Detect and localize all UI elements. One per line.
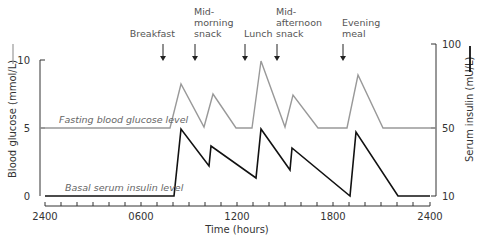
x-axis-title: Time (hours)	[204, 224, 269, 235]
fasting-glucose-annotation: Fasting blood glucose level	[59, 114, 189, 125]
evening-label-2: meal	[342, 28, 366, 39]
midafternoon-label-3: snack	[276, 28, 304, 39]
breakfast-arrow-icon	[160, 56, 166, 61]
y-right-axis-title: Serum insulin (mU/L)	[464, 56, 475, 162]
x-tick-0600: 0600	[128, 211, 153, 222]
evening-arrow-icon	[340, 56, 346, 61]
x-tick-2400-start: 2400	[32, 211, 57, 222]
breakfast-label: Breakfast	[130, 28, 175, 39]
midafternoon-arrow-icon	[274, 56, 280, 61]
midmorning-arrow-icon	[192, 56, 198, 61]
lunch-arrow-icon	[242, 56, 248, 61]
y-left-tick-0: 0	[24, 191, 30, 202]
meal-markers	[163, 44, 343, 58]
midmorning-label-3: snack	[194, 28, 222, 39]
y-left-tick-10: 10	[17, 55, 30, 66]
lunch-label: Lunch	[244, 28, 272, 39]
y-right-tick-50: 50	[442, 123, 455, 134]
left-y-axis: 10 5 0 Blood glucose (mmol/L)	[7, 44, 45, 202]
x-tick-2400-end: 2400	[417, 211, 442, 222]
y-right-tick-100: 100	[442, 39, 461, 50]
midafternoon-label-1: Mid-	[276, 6, 296, 17]
right-y-axis: 100 50 10 Serum insulin (mU/L)	[431, 39, 475, 202]
midmorning-label-2: morning	[194, 17, 234, 28]
chart: 10 5 0 Blood glucose (mmol/L) 100 50 10 …	[0, 0, 482, 242]
x-tick-1800: 1800	[320, 211, 345, 222]
y-left-tick-5: 5	[24, 123, 30, 134]
y-left-axis-title: Blood glucose (mmol/L)	[7, 60, 18, 178]
meal-arrowheads	[160, 56, 346, 61]
evening-label-1: Evening	[342, 17, 380, 28]
x-tick-1200: 1200	[224, 211, 249, 222]
basal-insulin-annotation: Basal serum insulin level	[65, 182, 184, 193]
midmorning-label-1: Mid-	[194, 6, 214, 17]
x-axis: 2400 0600 1200 1800 2400 Time (hours)	[32, 202, 442, 235]
midafternoon-label-2: afternoon	[276, 17, 322, 28]
y-right-tick-10: 10	[442, 191, 455, 202]
